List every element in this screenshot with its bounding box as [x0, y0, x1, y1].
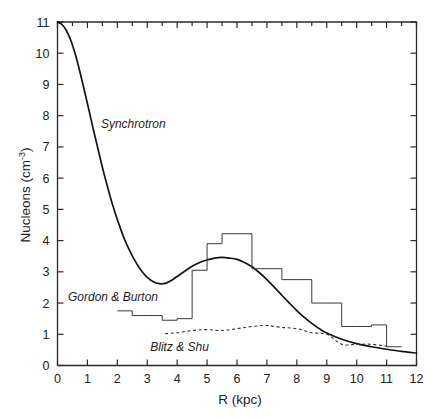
y-tick-label: 4: [43, 234, 50, 248]
axes-frame: [58, 22, 417, 366]
y-tick-label: 3: [43, 265, 50, 279]
x-tick-label: 3: [144, 372, 151, 386]
x-tick-label: 10: [350, 372, 364, 386]
x-tick-label: 2: [114, 372, 121, 386]
x-tick-label: 7: [263, 372, 270, 386]
figure-container: 012345678910111201234567891011 Synchrotr…: [0, 0, 445, 418]
x-axis-title: R (kpc): [218, 392, 262, 407]
y-tick-label: 0: [43, 359, 50, 373]
y-tick-label: 10: [36, 47, 50, 61]
y-axis-title-close: ): [18, 147, 33, 152]
x-tick-label: 8: [293, 372, 300, 386]
nucleon-density-chart: 012345678910111201234567891011 Synchrotr…: [0, 0, 445, 418]
y-tick-label: 8: [43, 109, 50, 123]
x-tick-label: 0: [54, 372, 61, 386]
series-gordon-burton: [117, 234, 401, 347]
x-tick-label: 12: [410, 372, 424, 386]
y-tick-label: 2: [43, 297, 50, 311]
y-tick-label: 5: [43, 203, 50, 217]
y-axis-title-exponent: -3: [17, 152, 27, 160]
x-tick-label: 6: [234, 372, 241, 386]
y-axis-title-main: Nucleons (cm: [18, 160, 33, 243]
y-tick-label: 7: [43, 140, 50, 154]
blitz-shu-label: Blitz & Shu: [150, 340, 209, 354]
gordon-burton-label: Gordon & Burton: [68, 290, 158, 304]
y-tick-label: 9: [43, 78, 50, 92]
x-tick-label: 1: [84, 372, 91, 386]
y-tick-label: 6: [43, 172, 50, 186]
x-tick-label: 4: [174, 372, 181, 386]
y-tick-label: 1: [43, 328, 50, 342]
y-tick-label: 11: [37, 16, 50, 30]
x-tick-label: 9: [323, 372, 330, 386]
x-tick-label: 11: [380, 372, 393, 386]
axis-titles-group: R (kpc) Nucleons (cm-3): [17, 147, 262, 407]
tick-labels-group: 012345678910111201234567891011: [36, 16, 424, 386]
tick-marks: [58, 22, 417, 366]
plot-frame: [58, 22, 417, 366]
x-tick-label: 5: [204, 372, 211, 386]
y-axis-title: Nucleons (cm-3): [17, 147, 33, 242]
synchrotron-label: Synchrotron: [101, 117, 166, 131]
